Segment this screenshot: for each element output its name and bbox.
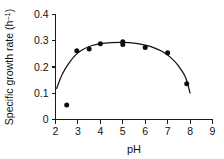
data-point-7 (165, 50, 170, 55)
x-tick-label-1: 3 (75, 125, 81, 137)
y-axis-title-close-paren: ) (3, 9, 15, 13)
data-point-3 (98, 41, 103, 46)
y-tick-label-4: 0.4 (34, 8, 49, 20)
y-axis-ticks (52, 15, 56, 120)
y-axis-tick-labels: 00.10.20.30.4 (34, 8, 49, 125)
y-axis-title-main: Specific growth rate (h (3, 21, 15, 126)
y-tick-label-1: 0.1 (34, 87, 49, 99)
y-tick-label-0: 0 (43, 113, 49, 125)
chart-axes (52, 15, 213, 124)
x-tick-label-4: 6 (142, 125, 148, 137)
chart-figure: 00.10.20.30.4 23456789 pH Specific growt… (0, 0, 224, 159)
y-axis-title: Specific growth rate (h–1) (3, 9, 15, 125)
x-axis-tick-labels: 23456789 (53, 125, 216, 137)
data-point-0 (64, 103, 69, 108)
x-tick-label-2: 4 (97, 125, 103, 137)
chart-plot-area: 00.10.20.30.4 23456789 pH Specific growt… (0, 0, 224, 159)
x-tick-label-0: 2 (53, 125, 59, 137)
data-point-2 (87, 46, 92, 51)
y-tick-label-2: 0.2 (34, 61, 49, 73)
x-axis-ticks (56, 120, 213, 124)
data-point-8 (184, 81, 189, 86)
svg-text:Specific growth rate (h–1): Specific growth rate (h–1) (3, 9, 15, 125)
data-point-1 (74, 48, 79, 53)
y-tick-label-3: 0.3 (34, 34, 49, 46)
x-tick-label-3: 5 (120, 125, 126, 137)
x-axis-title: pH (127, 143, 141, 155)
x-tick-label-7: 9 (210, 125, 216, 137)
y-axis-title-superscript: –1 (3, 12, 12, 20)
x-tick-label-5: 7 (165, 125, 171, 137)
data-point-5 (120, 39, 125, 44)
x-tick-label-6: 8 (187, 125, 193, 137)
data-point-6 (143, 45, 148, 50)
